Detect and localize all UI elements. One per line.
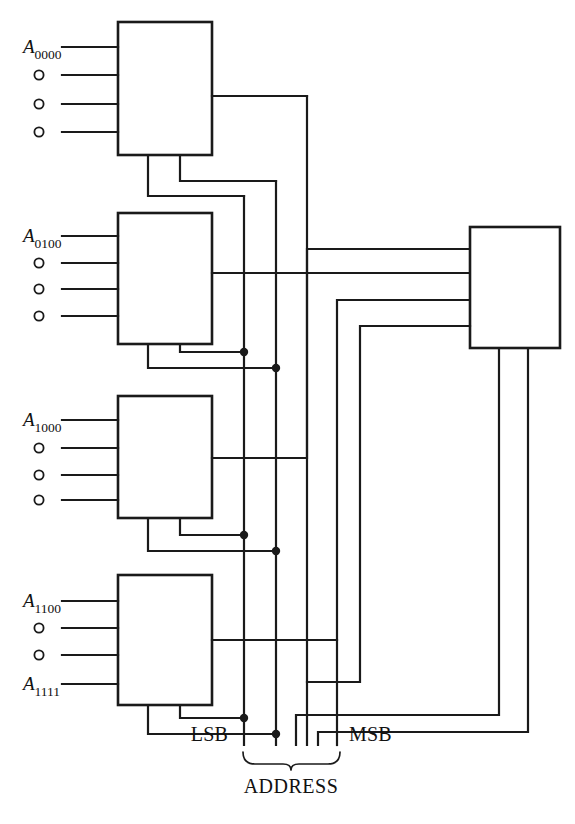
diagram-canvas: A0000 A0100 A1000 A1100 A1111 LSB MSB AD…: [0, 0, 575, 824]
ellipsis-circle-icon: [34, 99, 43, 108]
memory-block-4[interactable]: [118, 575, 212, 705]
block-4-address-tap-a: [180, 705, 244, 718]
block-3-output-wire: [212, 249, 470, 458]
junction-dots-group: [240, 348, 280, 738]
junction-dot: [240, 531, 248, 539]
msb-label: MSB: [349, 723, 392, 745]
memory-block-1[interactable]: [118, 22, 212, 155]
lsb-label: LSB: [191, 723, 228, 745]
memory-block-1-group: [34, 22, 307, 196]
block-2-address-label: A0100: [21, 225, 62, 251]
decoder-block[interactable]: [470, 227, 560, 348]
bus-annotation-group: LSB MSB ADDRESS: [191, 723, 392, 797]
block-3-address-label: A1000: [21, 409, 62, 435]
memory-block-3[interactable]: [118, 396, 212, 518]
block-1-address-tap-b: [180, 155, 276, 181]
junction-dot: [272, 364, 280, 372]
decoder-input-wire-4: [307, 326, 470, 682]
junction-dot: [272, 547, 280, 555]
block-3-address-tap-a: [180, 518, 244, 535]
ellipsis-circle-icon: [34, 623, 43, 632]
ellipsis-circle-icon: [34, 470, 43, 479]
block-4-output-wire: [212, 300, 470, 640]
block-4-address-label-start: A1100: [21, 590, 61, 616]
block-diagram-figure: A0000 A0100 A1000 A1100 A1111 LSB MSB AD…: [0, 0, 575, 824]
ellipsis-circle-icon: [34, 284, 43, 293]
memory-block-2-group: [34, 213, 470, 368]
block-1-address-label: A0000: [21, 36, 62, 62]
ellipsis-circle-icon: [34, 127, 43, 136]
block-4-address-label-end: A1111: [21, 673, 60, 699]
decoder-block-group: [296, 227, 560, 745]
block-2-address-tap-b: [148, 344, 276, 368]
block-1-address-tap-a: [148, 155, 244, 196]
junction-dot: [240, 348, 248, 356]
memory-block-2[interactable]: [118, 213, 212, 344]
junction-dot: [272, 730, 280, 738]
ellipsis-circle-icon: [34, 650, 43, 659]
decoder-output-wire-a: [296, 348, 499, 745]
ellipsis-circle-icon: [34, 443, 43, 452]
address-bus-lines: [244, 96, 337, 745]
ellipsis-circle-icon: [34, 70, 43, 79]
memory-block-3-group: [34, 249, 470, 551]
junction-dot: [240, 714, 248, 722]
address-bus-label: ADDRESS: [244, 775, 339, 797]
memory-block-4-group: [34, 300, 470, 734]
ellipsis-circle-icon: [34, 311, 43, 320]
decoder-output-wire-b: [318, 348, 528, 745]
ellipsis-circle-icon: [34, 495, 43, 504]
address-brace: [243, 752, 340, 770]
ellipsis-circle-icon: [34, 258, 43, 267]
